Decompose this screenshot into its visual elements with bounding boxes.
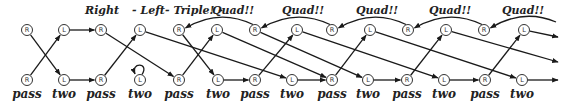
pattern-titles: Right- Left- Triple! -Quad!!Quad!!Quad!!… bbox=[84, 4, 544, 17]
left-hand-node: L bbox=[213, 75, 224, 86]
pattern-title: Right bbox=[84, 4, 119, 17]
left-hand-node: L bbox=[517, 75, 528, 86]
right-hand-node: R bbox=[403, 25, 414, 36]
svg-text:R: R bbox=[25, 76, 30, 84]
throw-label: two bbox=[128, 87, 152, 101]
throw-arrow bbox=[146, 32, 286, 78]
svg-text:R: R bbox=[330, 76, 335, 84]
pattern-title: Quad!! bbox=[212, 4, 254, 17]
svg-text:L: L bbox=[138, 76, 142, 84]
left-hand-node: L bbox=[59, 75, 70, 86]
throw-arrow bbox=[303, 32, 438, 78]
svg-text:R: R bbox=[177, 76, 182, 84]
left-hand-node: L bbox=[441, 25, 452, 36]
throw-label: pass bbox=[86, 87, 116, 101]
throw-label: pass bbox=[392, 87, 422, 101]
svg-text:R: R bbox=[406, 26, 411, 34]
right-hand-node: R bbox=[327, 75, 338, 86]
throw-label: pass bbox=[240, 87, 270, 101]
svg-text:R: R bbox=[99, 76, 104, 84]
pattern-title: Quad!! bbox=[502, 4, 544, 17]
svg-text:R: R bbox=[483, 76, 488, 84]
left-hand-node: L bbox=[439, 75, 450, 86]
svg-text:L: L bbox=[62, 76, 66, 84]
juggling-siteswap-diagram: Right- Left- Triple! -Quad!!Quad!!Quad!!… bbox=[0, 0, 564, 103]
svg-text:R: R bbox=[25, 26, 30, 34]
throw-arrow bbox=[411, 35, 442, 75]
svg-text:L: L bbox=[520, 76, 524, 84]
throw-arrow bbox=[530, 31, 558, 37]
left-hand-node: L bbox=[212, 25, 223, 36]
svg-text:L: L bbox=[442, 76, 446, 84]
svg-text:L: L bbox=[295, 26, 299, 34]
left-hand-node: L bbox=[135, 25, 146, 36]
svg-text:R: R bbox=[405, 76, 410, 84]
right-hand-node: R bbox=[250, 75, 261, 86]
left-hand-node: L bbox=[519, 25, 530, 36]
throw-arrow bbox=[336, 35, 366, 75]
svg-text:R: R bbox=[99, 26, 104, 34]
pattern-title: Quad!! bbox=[429, 4, 471, 17]
throw-label: pass bbox=[470, 87, 500, 101]
svg-text:L: L bbox=[216, 76, 220, 84]
throw-label: two bbox=[280, 87, 304, 101]
left-hand-node: L bbox=[287, 75, 298, 86]
svg-text:L: L bbox=[522, 26, 526, 34]
throw-arrow bbox=[106, 33, 173, 76]
right-hand-node: R bbox=[96, 75, 107, 86]
svg-text:L: L bbox=[215, 26, 219, 34]
self-loop-arrow bbox=[134, 65, 144, 74]
throw-label: pass bbox=[317, 87, 347, 101]
left-hand-node: L bbox=[365, 25, 376, 36]
right-hand-node: R bbox=[174, 75, 185, 86]
right-hand-node: R bbox=[174, 25, 185, 36]
svg-text:L: L bbox=[62, 26, 66, 34]
right-hand-node: R bbox=[327, 25, 338, 36]
svg-text:L: L bbox=[368, 26, 372, 34]
right-hand-node: R bbox=[402, 75, 413, 86]
left-hand-node: L bbox=[135, 75, 146, 86]
self-loop-arrow bbox=[134, 65, 144, 74]
throw-arrow bbox=[105, 35, 136, 75]
svg-text:R: R bbox=[482, 26, 487, 34]
svg-text:L: L bbox=[138, 26, 142, 34]
svg-text:R: R bbox=[177, 26, 182, 34]
pattern-title: - Left bbox=[132, 4, 165, 17]
throw-arrow bbox=[452, 32, 558, 62]
right-hand-node: R bbox=[480, 75, 491, 86]
pattern-title: Quad!! bbox=[282, 4, 324, 17]
throw-arrow bbox=[489, 35, 520, 75]
right-hand-node: R bbox=[250, 25, 261, 36]
left-hand-node: L bbox=[363, 75, 374, 86]
throw-label: two bbox=[356, 87, 380, 101]
throw-arrows bbox=[31, 30, 558, 80]
right-hand-node: R bbox=[22, 25, 33, 36]
svg-text:R: R bbox=[330, 26, 335, 34]
svg-text:R: R bbox=[253, 76, 258, 84]
pattern-title: Quad!! bbox=[356, 4, 398, 17]
right-hand-node: R bbox=[479, 25, 490, 36]
throw-arrow bbox=[376, 32, 516, 78]
svg-text:L: L bbox=[444, 26, 448, 34]
throw-label: two bbox=[206, 87, 230, 101]
left-hand-node: L bbox=[59, 25, 70, 36]
throw-label: pass bbox=[12, 87, 42, 101]
svg-text:R: R bbox=[253, 26, 258, 34]
svg-text:L: L bbox=[290, 76, 294, 84]
svg-text:L: L bbox=[366, 76, 370, 84]
throw-label: two bbox=[432, 87, 456, 101]
right-hand-node: R bbox=[96, 25, 107, 36]
throw-labels: passtwopasstwopasstwopasstwopasstwopasst… bbox=[12, 87, 534, 101]
throw-label: pass bbox=[164, 87, 194, 101]
left-hand-node: L bbox=[292, 25, 303, 36]
throw-label: two bbox=[52, 87, 76, 101]
right-hand-node: R bbox=[22, 75, 33, 86]
throw-label: two bbox=[510, 87, 534, 101]
